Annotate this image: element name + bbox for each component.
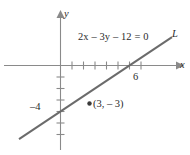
x-axis-label: x — [180, 60, 185, 71]
coordinate-graph-figure: 2x – 3y – 12 = 0 L y x 6 –4 (3, – 3) — [0, 0, 190, 155]
y-axis-label: y — [64, 9, 69, 20]
equation-label: 2x – 3y – 12 = 0 — [78, 32, 149, 43]
line-name-label: L — [172, 29, 178, 40]
graph-line-L — [19, 37, 172, 139]
y-intercept-label: –4 — [30, 102, 41, 113]
plotted-point-marker — [87, 101, 91, 105]
x-intercept-label: 6 — [133, 72, 138, 83]
graph-canvas — [0, 0, 190, 155]
plotted-point-label: (3, – 3) — [93, 99, 124, 110]
